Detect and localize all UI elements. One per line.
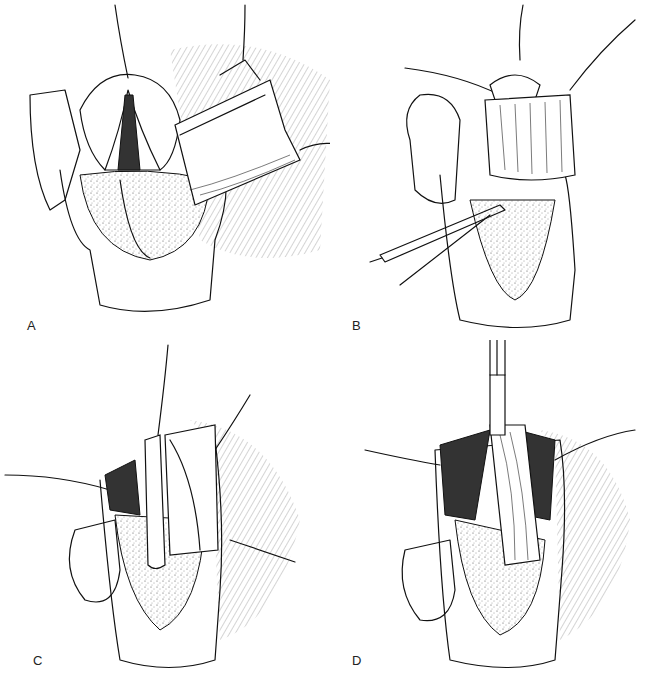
panel-d: D (340, 340, 645, 683)
panel-label-c: C (33, 653, 42, 668)
panel-d-illustration (340, 340, 645, 683)
panel-b-illustration (340, 0, 645, 340)
panel-label-b: B (352, 318, 361, 333)
panel-b: B (340, 0, 645, 340)
panel-label-d: D (352, 653, 361, 668)
panel-a-illustration (0, 0, 330, 340)
panel-c-illustration (0, 340, 330, 683)
panel-a: A (0, 0, 330, 340)
panel-c: C (0, 340, 330, 683)
panel-label-a: A (27, 318, 36, 333)
